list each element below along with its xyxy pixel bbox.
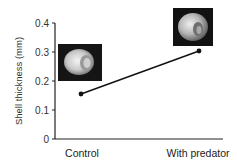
shell-photo-control — [58, 44, 102, 81]
ytick-0: 0 — [43, 134, 49, 145]
data-point-control — [79, 92, 84, 97]
y-tick-labels: 0.4 0.3 0.2 0.1 0 — [35, 18, 49, 145]
ytick-0.2: 0.2 — [35, 76, 49, 87]
data-point-with-predator — [197, 49, 202, 54]
category-control: Control — [65, 147, 99, 159]
y-axis-label: Shell thickness (mm) — [13, 37, 24, 125]
shell-photo-with-predator — [173, 8, 213, 46]
ytick-0.4: 0.4 — [35, 18, 49, 29]
category-with-predator: With predator — [166, 147, 230, 159]
ytick-0.3: 0.3 — [35, 47, 49, 58]
chart: 0.4 0.3 0.2 0.1 0 Shell thickness (mm) C… — [0, 0, 237, 162]
ytick-0.1: 0.1 — [35, 105, 49, 116]
